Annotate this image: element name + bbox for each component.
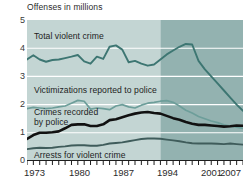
series-label-total-violent-crime: Total violent crime: [34, 31, 104, 41]
x-tick-2007: 2007: [220, 168, 241, 178]
y-tick-3: 3: [14, 72, 25, 81]
y-tick-5: 5: [14, 16, 25, 25]
y-tick-1: 1: [14, 128, 25, 137]
series-label-crimes-recorded-line1: Crimes recorded: [34, 107, 98, 117]
chart-figure: Offenses in millions 5 4 3 2 1 0 1973 19…: [0, 0, 246, 186]
x-tick-1994: 1994: [157, 168, 178, 178]
y-tick-2: 2: [14, 100, 25, 109]
x-tick-1987: 1987: [113, 168, 134, 178]
x-tick-1973: 1973: [24, 168, 45, 178]
x-tick-1980: 1980: [69, 168, 90, 178]
series-label-crimes-recorded-line2: by police: [34, 117, 68, 127]
y-tick-4: 4: [14, 44, 25, 53]
series-label-victimizations-reported: Victimizations reported to police: [34, 85, 157, 95]
series-label-arrests-violent-crime: Arrests for violent crime: [34, 150, 126, 160]
x-tick-2001: 2001: [201, 168, 222, 178]
y-tick-0: 0: [14, 156, 25, 165]
y-axis-title: Offenses in millions: [27, 2, 103, 12]
